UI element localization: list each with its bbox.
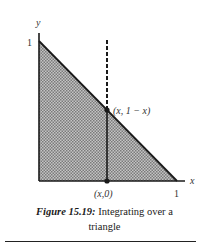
x-tick-label: 1 [174, 188, 179, 199]
point-on-hypotenuse [104, 107, 109, 112]
point-on-x-axis [104, 178, 109, 183]
figure-caption: Figure 15.19: Integrating over a [0, 205, 209, 219]
caption-text-line2: triangle [0, 220, 209, 234]
point-label-hypotenuse: (x, 1 − x) [113, 105, 151, 117]
y-tick-label: 1 [27, 37, 32, 48]
figure-number: Figure 15.19: [36, 206, 96, 217]
caption-text-line1: Integrating over a [96, 206, 173, 217]
point-label-x-axis: (x,0) [94, 188, 113, 200]
horizontal-rule [5, 241, 196, 242]
x-axis-label: x [189, 175, 195, 186]
y-axis-label: y [35, 17, 41, 28]
